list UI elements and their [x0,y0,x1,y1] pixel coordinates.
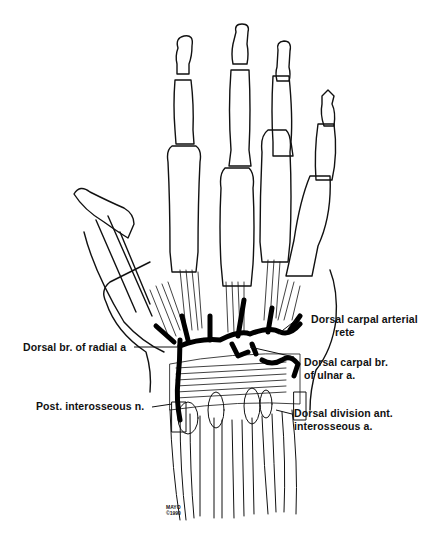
hand-outline-left [104,262,151,392]
leader-post-interosseous [152,404,172,407]
label-post-interosseous-n: Post. interosseous n. [36,400,144,413]
label-line: Post. interosseous n. [36,400,144,413]
hand-outline-right [310,270,336,410]
index-finger [168,36,201,272]
label-dorsal-carpal-arterial-rete: Dorsal carpal arterial rete [311,313,418,339]
middle-finger [220,24,254,286]
label-line: interosseous a. [294,420,393,433]
label-line: Dorsal br. of radial a [23,341,126,354]
copyright-credit: MAYO ©1990 [166,504,181,516]
little-finger [286,90,336,276]
anatomy-figure: Dorsal carpal arterial rete Dorsal br. o… [0,0,438,533]
label-line: Dorsal carpal br. [304,356,388,369]
forearm-tendons [170,410,297,520]
credit-year: ©1990 [166,510,181,516]
label-line: Dorsal division ant. [294,407,393,420]
label-line: Dorsal carpal arterial [311,313,418,326]
label-dorsal-division-ant-interosseous: Dorsal division ant. interosseous a. [294,407,393,433]
label-dorsal-carpal-br-ulnar: Dorsal carpal br. of ulnar a. [304,356,388,382]
label-dorsal-br-radial: Dorsal br. of radial a [23,341,126,354]
label-line: rete [311,326,418,339]
hand-illustration [0,0,438,533]
label-line: of ulnar a. [304,369,388,382]
leader-ant-interosseous [276,410,292,414]
ring-finger [260,41,293,262]
